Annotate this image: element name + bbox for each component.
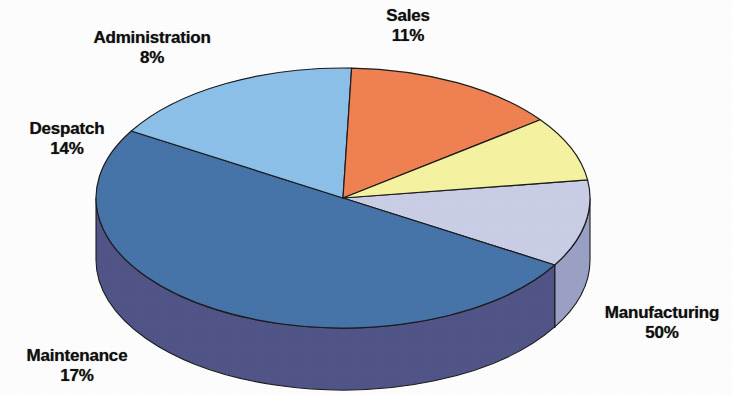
slice-label-manufacturing-name: Manufacturing — [592, 303, 732, 323]
slice-label-sales-name: Sales — [348, 6, 468, 26]
slice-label-manufacturing-percent: 50% — [592, 323, 732, 343]
slice-label-despatch-percent: 14% — [2, 139, 132, 159]
slice-label-administration: Administration 8% — [32, 28, 272, 68]
slice-label-administration-name: Administration — [32, 28, 272, 48]
slice-label-despatch: Despatch 14% — [2, 119, 132, 159]
slice-label-sales: Sales 11% — [348, 6, 468, 46]
pie-chart-image: Sales 11% Administration 8% Despatch 14%… — [0, 0, 732, 395]
slice-label-sales-percent: 11% — [348, 26, 468, 46]
slice-label-despatch-name: Despatch — [2, 119, 132, 139]
slice-label-maintenance-name: Maintenance — [2, 346, 152, 366]
slice-label-maintenance-percent: 17% — [2, 366, 152, 386]
slice-label-manufacturing: Manufacturing 50% — [592, 303, 732, 343]
slice-label-administration-percent: 8% — [32, 48, 272, 68]
pie-top-faces — [96, 68, 590, 328]
slice-label-maintenance: Maintenance 17% — [2, 346, 152, 386]
